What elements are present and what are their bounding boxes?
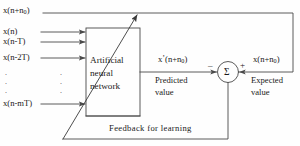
predicted-signal-label: x’(n+n0): [158, 55, 187, 65]
input-label-4: x(n-mT): [3, 99, 32, 108]
block-label-line3: network: [90, 82, 120, 92]
feedback-label: Feedback for learning: [109, 124, 192, 133]
block-label-line1: Artificial: [90, 56, 124, 66]
sigma-symbol: Σ: [224, 67, 230, 77]
block-label-line2: neural: [90, 69, 113, 79]
diagram-canvas: x(n+n0) x(n) x(n-T) x(n-2T) x(n-mT) ... …: [0, 0, 300, 146]
plus-sign: +: [240, 60, 245, 70]
expected-caption-line2: value: [251, 88, 270, 97]
expected-signal-label: x(n+n0): [253, 55, 280, 65]
input-label-1: x(n): [3, 27, 17, 36]
expected-caption-line1: Expected: [251, 76, 283, 85]
input-label-2: x(n-T): [3, 37, 25, 46]
predicted-caption-line1: Predicted: [155, 76, 187, 85]
input-ellipsis-left: ...: [5, 68, 7, 95]
input-ellipsis-right: ...: [60, 68, 62, 95]
minus-sign: –: [208, 60, 213, 70]
predicted-caption-line2: value: [155, 88, 174, 97]
input-label-3: x(n-2T): [3, 53, 30, 62]
top-feedback-label: x(n+n0): [3, 6, 30, 16]
